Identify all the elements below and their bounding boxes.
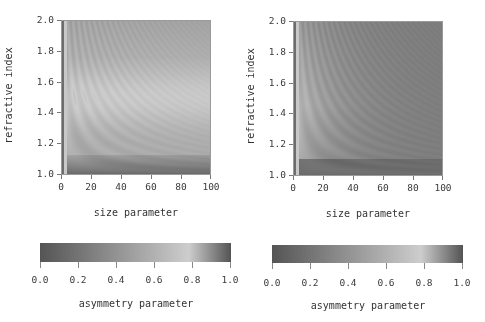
right-colorbar-tick-label: 1.0 xyxy=(447,277,477,288)
right-ytick-label: 1.2 xyxy=(260,138,286,149)
right-y-axis-label-visible: refractive index xyxy=(245,37,256,157)
right-xtick-mark xyxy=(442,176,443,180)
right-heatmap-panel: 2.0 1.8 1.6 1.4 1.2 1.0 0 20 40 60 80 10… xyxy=(0,0,485,322)
right-xtick-label: 100 xyxy=(428,182,458,193)
right-heatmap-plot xyxy=(293,21,443,175)
right-colorbar-tick xyxy=(462,263,463,269)
right-ytick-mark xyxy=(289,52,293,53)
right-ytick-mark xyxy=(289,21,293,22)
right-colorbar xyxy=(272,245,463,263)
right-xtick-mark xyxy=(353,176,354,180)
right-ytick-label: 1.4 xyxy=(260,107,286,118)
right-colorbar-tick-label: 0.6 xyxy=(371,277,401,288)
right-xtick-mark xyxy=(323,176,324,180)
right-xtick-label: 60 xyxy=(368,182,398,193)
right-xtick-label: 80 xyxy=(398,182,428,193)
right-colorbar-tick-label: 0.2 xyxy=(295,277,325,288)
right-ytick-label: 1.8 xyxy=(260,46,286,57)
right-ytick-label: 1.0 xyxy=(260,169,286,180)
right-colorbar-tick xyxy=(424,263,425,269)
right-ytick-mark xyxy=(289,83,293,84)
right-colorbar-tick-label: 0.0 xyxy=(257,277,287,288)
right-ytick-mark xyxy=(289,144,293,145)
right-colorbar-title: asymmetry parameter xyxy=(268,300,468,311)
right-colorbar-tick xyxy=(310,263,311,269)
right-x-axis-label: size parameter xyxy=(293,208,443,219)
right-colorbar-tick-label: 0.8 xyxy=(409,277,439,288)
right-xtick-label: 40 xyxy=(338,182,368,193)
right-ytick-label: 1.6 xyxy=(260,77,286,88)
right-colorbar-tick xyxy=(272,263,273,269)
right-colorbar-tick-label: 0.4 xyxy=(333,277,363,288)
right-colorbar-tick xyxy=(386,263,387,269)
right-colorbar-tick xyxy=(348,263,349,269)
right-xtick-label: 0 xyxy=(278,182,308,193)
right-xtick-mark xyxy=(413,176,414,180)
right-xtick-mark xyxy=(293,176,294,180)
right-xtick-mark xyxy=(383,176,384,180)
right-ytick-mark xyxy=(289,113,293,114)
right-xtick-label: 20 xyxy=(308,182,338,193)
right-ytick-label: 2.0 xyxy=(260,15,286,26)
